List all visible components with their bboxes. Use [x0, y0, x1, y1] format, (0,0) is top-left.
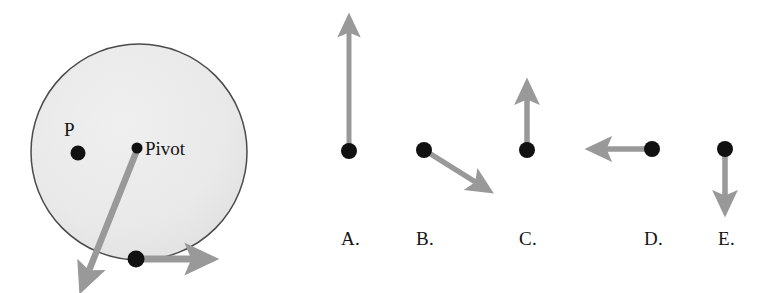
option-c-dot [519, 142, 535, 158]
option-d-dot [644, 141, 660, 157]
physics-diagram-canvas [0, 0, 761, 293]
option-a-label: A. [341, 229, 360, 248]
option-d-label: D. [644, 229, 663, 248]
pivot-dot [132, 143, 143, 154]
option-e-label: E. [718, 229, 735, 248]
option-b-label: B. [416, 229, 434, 248]
pivot-label: Pivot [145, 139, 185, 158]
option-b-dot [416, 142, 432, 158]
option-c-label: C. [519, 229, 537, 248]
point-p-dot [71, 146, 86, 161]
rim-point-dot [128, 251, 145, 268]
option-b-arrow [429, 153, 485, 188]
diagram-root: P Pivot A. B. C. D. E. [0, 0, 761, 293]
option-e-dot [717, 141, 733, 157]
point-p-label: P [64, 120, 75, 139]
option-a-dot [341, 143, 357, 159]
